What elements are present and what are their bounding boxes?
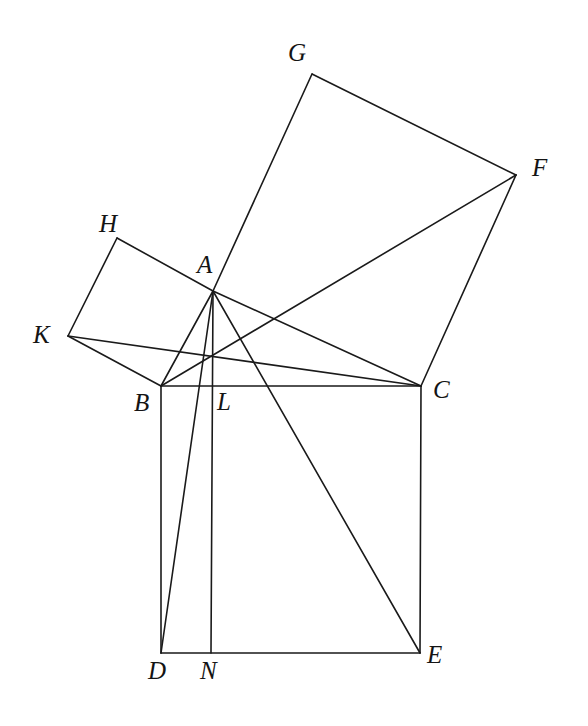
- vertex-label-l: L: [217, 389, 231, 414]
- vertex-label-g: G: [288, 40, 306, 65]
- segment-GA: [213, 74, 312, 291]
- geometry-canvas: [0, 0, 588, 726]
- vertex-label-b: B: [134, 390, 149, 415]
- vertex-label-f: F: [532, 155, 547, 180]
- segment-EC: [420, 386, 421, 653]
- vertex-label-a: A: [197, 252, 212, 277]
- vertex-label-e: E: [427, 642, 442, 667]
- vertex-label-k: K: [33, 322, 50, 347]
- segment-HK: [68, 238, 117, 336]
- segment-KB: [68, 336, 161, 386]
- segments-group: [68, 74, 516, 653]
- segment-FG: [312, 74, 516, 175]
- segment-CF: [421, 175, 516, 386]
- vertex-label-n: N: [200, 658, 217, 683]
- segment-BF: [161, 175, 516, 386]
- segment-AE: [213, 291, 420, 653]
- vertex-label-c: C: [433, 377, 450, 402]
- geometry-figure: ABCDEFGHKLN: [0, 0, 588, 726]
- segment-AB: [161, 291, 213, 386]
- vertex-label-d: D: [148, 658, 166, 683]
- segment-AN-altitude: [211, 291, 213, 653]
- segment-AD: [161, 291, 213, 653]
- vertex-label-h: H: [99, 211, 117, 236]
